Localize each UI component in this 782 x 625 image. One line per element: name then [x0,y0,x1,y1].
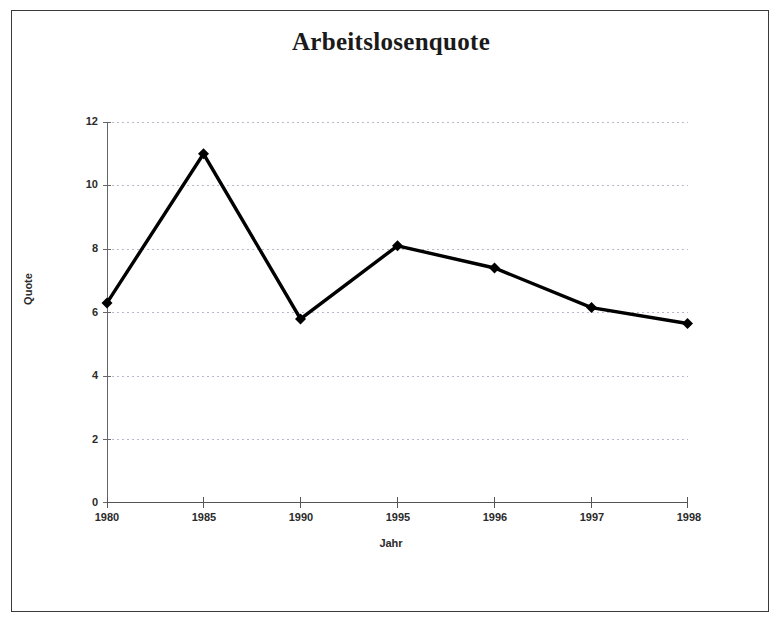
data-line-quote [107,154,688,324]
y-tick-label-6: 6 [58,306,98,318]
x-tick-label-1980: 1980 [67,511,147,523]
x-tick-label-1985: 1985 [164,511,244,523]
chart-title: Arbeitslosenquote [0,28,782,56]
y-tick-label-4: 4 [58,369,98,381]
x-tick-label-1995: 1995 [358,511,438,523]
plot-area [107,122,688,503]
chart-figure: Arbeitslosenquote 12 10 8 6 4 2 0 Quote … [0,0,782,625]
y-axis-label: Quote [22,254,34,324]
x-tick-label-1998: 1998 [649,511,729,523]
y-tick-label-8: 8 [58,242,98,254]
x-tick-label-1997: 1997 [552,511,632,523]
y-tick-label-12: 12 [58,115,98,127]
x-tick-label-1990: 1990 [261,511,341,523]
y-tick-label-0: 0 [58,496,98,508]
x-axis-label: Jahr [0,537,782,549]
y-tick-label-2: 2 [58,433,98,445]
x-tick-label-1996: 1996 [455,511,535,523]
data-point-1996 [489,263,500,274]
data-point-1997 [586,302,597,313]
plot-svg [107,122,688,503]
y-tick-label-10: 10 [58,178,98,190]
